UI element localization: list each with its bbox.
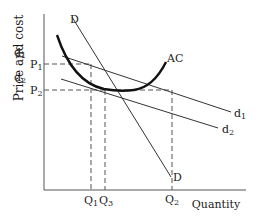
average-cost-curve: [57, 35, 166, 91]
demand-curve-d2: [61, 79, 218, 128]
demand-curve-d1: [62, 56, 231, 112]
label-D-top: D: [70, 13, 79, 26]
label-P2: P2: [30, 84, 43, 98]
label-d1-right: d1: [234, 107, 246, 121]
label-D-bottom: D: [173, 171, 182, 184]
label-d2-right: d2: [222, 123, 234, 137]
label-P1: P1: [30, 58, 43, 72]
x-axis-label: Quantity: [192, 198, 241, 211]
label-Q3: Q3: [99, 194, 113, 208]
label-Q2: Q2: [165, 193, 179, 207]
demand-curve-D: [72, 17, 171, 177]
cost-demand-diagram: Price and cost Quantity D D AC d1 d2 d1 …: [0, 0, 259, 221]
label-Q1: Q1: [84, 194, 98, 208]
label-AC: AC: [166, 52, 183, 65]
